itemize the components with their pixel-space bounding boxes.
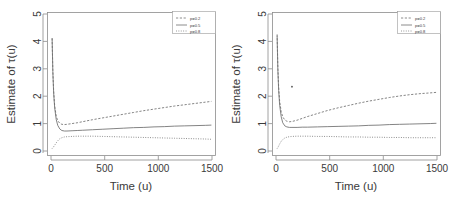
series-group-left xyxy=(52,38,211,148)
y-axis-right: 0 1 2 3 4 5 Estimate of τ(u) xyxy=(230,11,272,154)
chart-panel-right: 0 1 2 3 4 5 Estimate of τ(u) 0 500 1000 … xyxy=(225,0,451,198)
y-axis-title: Estimate of τ(u) xyxy=(230,44,242,123)
y-tick-label: 2 xyxy=(32,93,43,99)
chart-panel-left: 0 1 2 3 4 5 Estimate of τ(u) 0 500 1000 … xyxy=(0,0,226,198)
y-tick-label: 4 xyxy=(32,38,43,44)
series-line-p08 xyxy=(277,136,436,148)
legend-label-p02: p=0.2 xyxy=(415,16,426,21)
plot-border xyxy=(48,13,216,156)
x-tick-label: 1000 xyxy=(372,163,395,174)
y-axis-title: Estimate of τ(u) xyxy=(5,44,17,123)
y-tick-label: 3 xyxy=(32,66,43,72)
plot-area-right xyxy=(273,13,441,156)
plot-area-left xyxy=(48,13,216,156)
chart-svg-right: 0 1 2 3 4 5 Estimate of τ(u) 0 500 1000 … xyxy=(225,0,451,198)
series-line-p05 xyxy=(52,38,211,131)
y-tick-label: 1 xyxy=(257,120,268,126)
legend-right: p=0.2 p=0.5 p=0.8 xyxy=(398,12,441,34)
x-tick-label: 0 xyxy=(48,163,54,174)
legend-label-p05: p=0.5 xyxy=(415,23,426,28)
x-axis-title: Time (u) xyxy=(110,180,153,192)
y-tick-label: 0 xyxy=(257,148,268,154)
x-tick-label: 1500 xyxy=(426,163,449,174)
legend-left: p=0.2 p=0.5 p=0.8 xyxy=(173,12,216,34)
x-tick-label: 1000 xyxy=(147,163,170,174)
y-axis-left: 0 1 2 3 4 5 Estimate of τ(u) xyxy=(5,11,47,154)
figure-container: 0 1 2 3 4 5 Estimate of τ(u) 0 500 1000 … xyxy=(0,0,451,198)
series-line-p02 xyxy=(277,34,436,121)
y-tick-label: 5 xyxy=(32,11,43,17)
x-tick-label: 1500 xyxy=(201,163,224,174)
y-tick-label: 2 xyxy=(257,93,268,99)
x-tick-label: 500 xyxy=(96,163,113,174)
x-axis-title: Time (u) xyxy=(335,180,378,192)
legend-label-p05: p=0.5 xyxy=(190,23,201,28)
series-line-p02 xyxy=(52,38,211,124)
chart-svg-left: 0 1 2 3 4 5 Estimate of τ(u) 0 500 1000 … xyxy=(0,0,226,198)
y-tick-label: 5 xyxy=(257,11,268,17)
series-line-p08 xyxy=(52,136,211,148)
y-tick-label: 1 xyxy=(32,120,43,126)
legend-label-p08: p=0.8 xyxy=(190,29,201,34)
y-tick-label: 0 xyxy=(32,148,43,154)
legend-label-p02: p=0.2 xyxy=(190,16,201,21)
series-line-p05 xyxy=(277,36,436,128)
x-tick-label: 500 xyxy=(321,163,338,174)
series-group-right xyxy=(277,34,436,148)
plot-border xyxy=(273,13,441,156)
y-tick-label: 4 xyxy=(257,38,268,44)
y-tick-label: 3 xyxy=(257,66,268,72)
outlier-point xyxy=(291,86,293,88)
annotation-group-right xyxy=(291,86,293,88)
x-axis-right: 0 500 1000 1500 Time (u) xyxy=(273,156,448,192)
legend-label-p08: p=0.8 xyxy=(415,29,426,34)
x-axis-left: 0 500 1000 1500 Time (u) xyxy=(48,156,223,192)
x-tick-label: 0 xyxy=(273,163,279,174)
